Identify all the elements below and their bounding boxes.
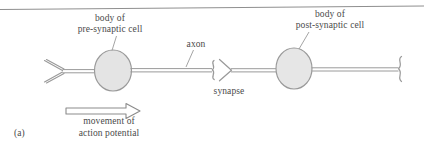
axon-leader-line [186,50,194,67]
synaptic-terminal [212,61,214,80]
post-synaptic-soma [276,48,312,89]
panel-label: (a) [14,128,40,139]
label-post-synaptic-cell-line1: body of [315,9,345,19]
post-synaptic-wedge [220,60,232,81]
axon-shaft [131,69,213,72]
label-axon: axon [174,39,218,50]
label-synapse: synapse [198,86,260,97]
post-dendrite-shaft [231,69,277,72]
label-pre-synaptic-cell-line2: pre-synaptic cell [58,24,162,35]
label-pre-synaptic-cell-line1: body of [95,13,125,23]
post-synaptic-axon [312,68,399,71]
label-post-synaptic-cell: body of post-synaptic cell [272,9,388,31]
neuron-synapse-figure: body of pre-synaptic cell body of post-s… [0,0,424,153]
post-synaptic-terminal [399,57,402,82]
post-cell-leader-line [299,32,309,49]
pre-synaptic-soma [95,50,132,91]
label-movement-of-action-potential: movement of action potential [56,116,162,139]
pre-dendrite-shaft [63,70,100,73]
label-post-synaptic-cell-line2: post-synaptic cell [272,20,388,31]
label-movement-line1: movement of [83,116,135,126]
pre-cell-leader-line [112,36,117,51]
label-movement-line2: action potential [56,128,162,140]
dendrite-fork [45,60,65,84]
label-pre-synaptic-cell: body of pre-synaptic cell [58,13,162,35]
